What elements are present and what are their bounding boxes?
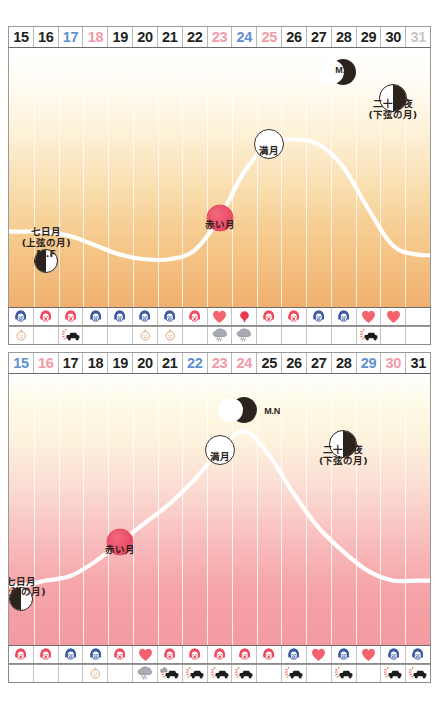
annotation-red-moon[interactable]: 赤い月 [107, 529, 134, 556]
icon-cell[interactable] [332, 327, 357, 344]
day-cell-16[interactable]: 16 [34, 353, 59, 373]
icon-cell[interactable] [307, 646, 332, 663]
annotation-moon-night[interactable]: M.N [330, 59, 356, 85]
icon-cell[interactable] [158, 646, 183, 663]
icon-cell[interactable] [108, 665, 133, 682]
day-cell-22[interactable]: 22 [183, 353, 208, 373]
icon-cell[interactable] [59, 327, 84, 344]
icon-cell[interactable] [183, 327, 208, 344]
day-cell-19[interactable]: 19 [108, 353, 133, 373]
day-cell-26[interactable]: 26 [282, 27, 307, 47]
icon-cell[interactable] [406, 308, 430, 325]
icon-cell[interactable] [133, 327, 158, 344]
icon-cell[interactable] [332, 308, 357, 325]
icon-cell[interactable] [357, 665, 382, 682]
day-cell-18[interactable]: 18 [83, 353, 108, 373]
icon-cell[interactable] [208, 646, 233, 663]
day-cell-31[interactable]: 31 [406, 353, 430, 373]
icon-cell[interactable] [158, 308, 183, 325]
icon-cell[interactable] [232, 308, 257, 325]
day-cell-16[interactable]: 16 [34, 27, 59, 47]
day-cell-21[interactable]: 21 [158, 353, 183, 373]
day-cell-23[interactable]: 23 [208, 353, 233, 373]
icon-cell[interactable] [232, 646, 257, 663]
day-cell-28[interactable]: 28 [332, 353, 357, 373]
icon-cell[interactable] [357, 327, 382, 344]
icon-cell[interactable] [208, 665, 233, 682]
icon-cell[interactable] [232, 327, 257, 344]
annotation-seventh-day-moon[interactable]: 七日月(上弦の月)M.F [34, 249, 58, 273]
day-cell-31[interactable]: 31 [406, 27, 430, 47]
annotation-twenty-third-night-moon[interactable]: 二十三夜(下弦の月) [329, 430, 357, 458]
icon-cell[interactable] [257, 665, 282, 682]
icon-cell[interactable] [406, 646, 430, 663]
icon-cell[interactable] [282, 327, 307, 344]
icon-cell[interactable] [83, 308, 108, 325]
icon-cell[interactable] [9, 327, 34, 344]
icon-cell[interactable] [59, 646, 84, 663]
icon-cell[interactable] [381, 327, 406, 344]
annotation-moon-night[interactable]: M.N [231, 397, 257, 423]
icon-cell[interactable] [307, 327, 332, 344]
annotation-full-moon[interactable]: 満月 [254, 129, 284, 159]
day-cell-20[interactable]: 20 [133, 27, 158, 47]
day-cell-27[interactable]: 27 [307, 353, 332, 373]
icon-cell[interactable] [158, 327, 183, 344]
icon-cell[interactable] [34, 327, 59, 344]
icon-cell[interactable] [183, 646, 208, 663]
icon-cell[interactable] [83, 327, 108, 344]
annotation-seventh-day-moon[interactable]: 七日月(上弦の月) [9, 587, 33, 611]
icon-cell[interactable] [307, 665, 332, 682]
icon-cell[interactable] [158, 665, 183, 682]
day-cell-19[interactable]: 19 [108, 27, 133, 47]
icon-cell[interactable] [381, 665, 406, 682]
icon-cell[interactable] [357, 646, 382, 663]
day-cell-24[interactable]: 24 [232, 353, 257, 373]
icon-cell[interactable] [257, 327, 282, 344]
day-cell-17[interactable]: 17 [59, 353, 84, 373]
annotation-red-moon[interactable]: 赤い月 [206, 204, 233, 231]
icon-cell[interactable] [282, 665, 307, 682]
day-cell-25[interactable]: 25 [257, 353, 282, 373]
icon-cell[interactable] [357, 308, 382, 325]
icon-cell[interactable] [59, 665, 84, 682]
icon-cell[interactable] [232, 665, 257, 682]
icon-cell[interactable] [332, 646, 357, 663]
icon-cell[interactable] [108, 327, 133, 344]
annotation-full-moon[interactable]: 満月 [205, 435, 235, 465]
icon-cell[interactable] [208, 327, 233, 344]
icon-cell[interactable] [133, 308, 158, 325]
icon-cell[interactable] [9, 646, 34, 663]
icon-cell[interactable] [332, 665, 357, 682]
icon-cell[interactable] [307, 308, 332, 325]
icon-cell[interactable] [381, 308, 406, 325]
icon-cell[interactable] [133, 646, 158, 663]
day-cell-15[interactable]: 15 [9, 27, 34, 47]
icon-cell[interactable] [9, 665, 34, 682]
day-cell-30[interactable]: 30 [381, 353, 406, 373]
icon-cell[interactable] [183, 308, 208, 325]
icon-cell[interactable] [83, 665, 108, 682]
icon-cell[interactable] [34, 308, 59, 325]
icon-cell[interactable] [34, 646, 59, 663]
icon-cell[interactable] [257, 646, 282, 663]
icon-cell[interactable] [282, 308, 307, 325]
icon-cell[interactable] [9, 308, 34, 325]
icon-cell[interactable] [59, 308, 84, 325]
day-cell-29[interactable]: 29 [357, 353, 382, 373]
icon-cell[interactable] [257, 308, 282, 325]
day-cell-15[interactable]: 15 [9, 353, 34, 373]
day-cell-24[interactable]: 24 [232, 27, 257, 47]
icon-cell[interactable] [108, 308, 133, 325]
icon-cell[interactable] [406, 327, 430, 344]
icon-cell[interactable] [34, 665, 59, 682]
icon-cell[interactable] [133, 665, 158, 682]
icon-cell[interactable] [108, 646, 133, 663]
day-cell-25[interactable]: 25 [257, 27, 282, 47]
icon-cell[interactable] [406, 665, 430, 682]
day-cell-30[interactable]: 30 [381, 27, 406, 47]
day-cell-29[interactable]: 29 [357, 27, 382, 47]
icon-cell[interactable] [83, 646, 108, 663]
icon-cell[interactable] [282, 646, 307, 663]
day-cell-18[interactable]: 18 [83, 27, 108, 47]
